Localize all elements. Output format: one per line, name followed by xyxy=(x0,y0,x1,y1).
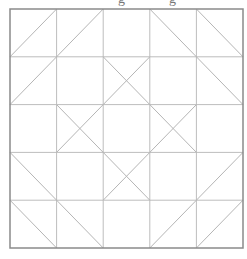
quilt-diagram: g g xyxy=(0,0,247,259)
diagonal-rising xyxy=(150,200,197,248)
diagonal-rising xyxy=(57,9,104,57)
diagonal-rising xyxy=(196,200,243,248)
quilt-grid xyxy=(0,0,247,259)
diagonal-falling xyxy=(57,200,104,248)
diagonal-rising xyxy=(10,9,57,57)
diagonal-rising xyxy=(196,152,243,200)
title-fragment: g xyxy=(169,0,176,7)
title-fragment: g xyxy=(118,0,125,7)
diagonal-falling xyxy=(196,57,243,105)
diagonal-rising xyxy=(10,57,57,105)
diagonal-falling xyxy=(10,200,57,248)
diagonal-falling xyxy=(196,9,243,57)
diagonal-falling xyxy=(10,152,57,200)
diagonal-falling xyxy=(150,9,197,57)
outer-border xyxy=(10,9,243,248)
